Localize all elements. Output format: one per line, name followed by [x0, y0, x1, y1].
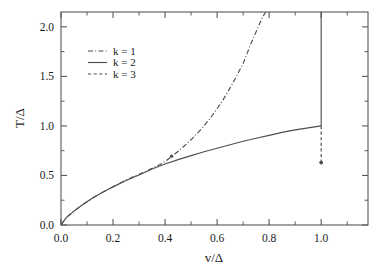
- x-axis-tick-labels: 0.00.20.40.60.81.0: [54, 232, 329, 244]
- legend-label-k2: k = 2: [113, 56, 136, 68]
- y-axis-ticks: [61, 27, 368, 225]
- x-tick-label: 0.4: [158, 232, 173, 244]
- chart-legend: k = 1k = 2k = 3: [88, 45, 136, 80]
- x-tick-label: 1.0: [314, 232, 329, 244]
- y-axis-label: T/Δ: [12, 108, 27, 128]
- annotation-layer: [170, 12, 321, 158]
- y-axis-tick-labels: 0.00.51.01.52.0: [40, 21, 55, 231]
- x-axis-ticks: [61, 12, 347, 225]
- data-series-layer: [61, 12, 323, 225]
- legend-label-k1: k = 1: [113, 45, 136, 57]
- y-tick-label: 1.0: [40, 120, 55, 132]
- chart-figure: 0.00.20.40.60.81.0 0.00.51.01.52.0 v/Δ T…: [0, 0, 384, 273]
- legend-label-k3: k = 3: [113, 68, 136, 80]
- y-tick-label: 0.0: [40, 219, 55, 231]
- series-curve-k2: [61, 126, 321, 225]
- x-tick-label: 0.6: [210, 232, 225, 244]
- y-tick-label: 1.5: [40, 70, 55, 82]
- y-tick-label: 2.0: [40, 21, 55, 33]
- plot-frame: [61, 12, 368, 225]
- annotation-point-marker: [170, 154, 173, 157]
- y-tick-label: 0.5: [40, 169, 55, 181]
- x-axis-label: v/Δ: [205, 250, 223, 265]
- x-tick-label: 0.8: [262, 232, 277, 244]
- x-tick-label: 0.0: [54, 232, 69, 244]
- plot-canvas: 0.00.20.40.60.81.0 0.00.51.01.52.0 v/Δ T…: [0, 0, 384, 273]
- x-tick-label: 0.2: [106, 232, 121, 244]
- series-curve-k1: [61, 12, 266, 225]
- series-endpoint-marker: [319, 161, 323, 165]
